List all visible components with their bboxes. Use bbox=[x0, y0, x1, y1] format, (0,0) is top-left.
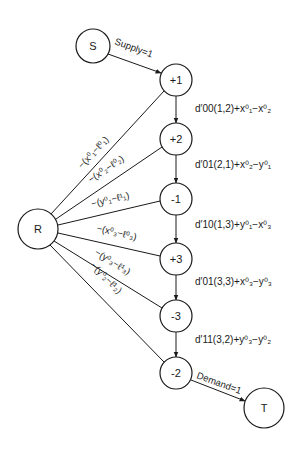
network-flow-diagram: Supply=1 Demand=1 −(x⁰₁−ℓ⁰₁) −(x⁰₂−ℓ⁰₂) … bbox=[0, 0, 298, 450]
cost-label-5: d′11(3,2)+y⁰₃−y⁰₂ bbox=[195, 334, 271, 345]
node-label: +3 bbox=[170, 253, 183, 265]
cost-label-3: d′10(1,3)+y⁰₁−x⁰₃ bbox=[195, 219, 271, 230]
edge-R-2 bbox=[56, 147, 162, 219]
node-minus-2: -2 bbox=[160, 357, 192, 389]
node-source: S bbox=[76, 29, 110, 63]
node-plus-3: +3 bbox=[160, 243, 192, 275]
supply-label: Supply=1 bbox=[113, 36, 154, 60]
cost-label-1: d′00(1,2)+x⁰₁−x⁰₂ bbox=[195, 103, 271, 114]
node-label: -3 bbox=[171, 310, 181, 322]
node-label: S bbox=[89, 40, 96, 52]
node-plus-2: +2 bbox=[160, 123, 192, 155]
node-minus-3: -3 bbox=[160, 300, 192, 332]
node-label: -1 bbox=[171, 193, 181, 205]
node-label: +2 bbox=[170, 133, 183, 145]
cost-label-2: d′01(2,1)+x⁰₂−y⁰₁ bbox=[195, 159, 272, 170]
edge-supply bbox=[108, 54, 161, 73]
node-label: R bbox=[34, 223, 42, 235]
node-minus-1: -1 bbox=[160, 183, 192, 215]
node-root: R bbox=[18, 209, 58, 249]
r-edge-label-4: −(x⁰₃−ℓ⁰₃) bbox=[96, 222, 138, 242]
node-label: -2 bbox=[171, 367, 181, 379]
node-plus-1: +1 bbox=[160, 64, 192, 96]
demand-label: Demand=1 bbox=[195, 370, 243, 396]
node-label: T bbox=[261, 402, 268, 414]
cost-label-4: d′01(3,3)+x⁰₃−y⁰₃ bbox=[195, 276, 272, 287]
node-sink: T bbox=[244, 388, 284, 428]
node-label: +1 bbox=[170, 74, 183, 86]
